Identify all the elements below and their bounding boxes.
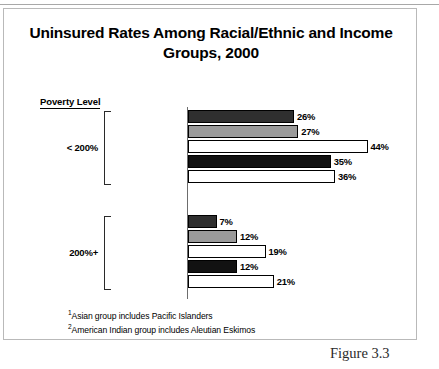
- bar-value-label: 21%: [277, 275, 295, 288]
- bar[interactable]: [188, 110, 294, 123]
- bar-value-label: 26%: [297, 110, 315, 123]
- group-bracket: [104, 111, 111, 185]
- bar-value-label: 36%: [338, 170, 356, 183]
- bar-value-label: 12%: [240, 260, 258, 273]
- page-top-rule: [0, 4, 439, 5]
- footnote: 1Asian group includes Pacific Islanders: [68, 309, 255, 323]
- bar[interactable]: [188, 260, 237, 273]
- footnote-text: American Indian group includes Aleutian …: [72, 325, 256, 335]
- bar[interactable]: [188, 125, 298, 138]
- bar-value-label: 44%: [371, 140, 389, 153]
- footnotes: 1Asian group includes Pacific Islanders2…: [68, 309, 255, 337]
- bar[interactable]: [188, 275, 274, 288]
- group-bracket: [104, 216, 111, 290]
- bar-value-label: 19%: [269, 245, 287, 258]
- bar-group-label: 200%+: [42, 247, 98, 258]
- bar[interactable]: [188, 245, 266, 258]
- bar-group-label: < 200%: [42, 142, 98, 153]
- figure-frame: Uninsured Rates Among Racial/Ethnic and …: [3, 8, 417, 340]
- bar[interactable]: [188, 170, 335, 183]
- bar[interactable]: [188, 230, 237, 243]
- bar-value-label: 12%: [240, 230, 258, 243]
- bar[interactable]: [188, 140, 368, 153]
- bar-value-label: 27%: [301, 125, 319, 138]
- bar[interactable]: [188, 155, 331, 168]
- bar-value-label: 7%: [220, 215, 233, 228]
- chart-plot-area: < 200%White, Non-Hispanic26%Black, Non-H…: [4, 9, 418, 341]
- footnote: 2American Indian group includes Aleutian…: [68, 323, 255, 337]
- bar-value-label: 35%: [334, 155, 352, 168]
- figure-caption: Figure 3.3: [330, 345, 390, 362]
- footnote-text: Asian group includes Pacific Islanders: [72, 311, 213, 321]
- bar[interactable]: [188, 215, 217, 228]
